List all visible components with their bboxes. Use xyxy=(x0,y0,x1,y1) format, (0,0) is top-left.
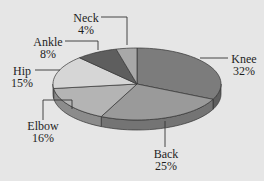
label-knee: Knee 32% xyxy=(229,53,259,77)
label-knee-pct: 32% xyxy=(229,65,259,77)
label-neck: Neck 4% xyxy=(72,12,100,36)
pie-chart: Neck 4% Ankle 8% Hip 15% Elbow 16% Back … xyxy=(0,0,264,181)
label-back: Back 25% xyxy=(151,148,181,172)
label-ankle-pct: 8% xyxy=(31,48,65,60)
label-elbow: Elbow 16% xyxy=(26,120,60,144)
label-elbow-pct: 16% xyxy=(26,132,60,144)
label-back-pct: 25% xyxy=(151,160,181,172)
label-hip-pct: 15% xyxy=(9,77,35,89)
leader-line-neck xyxy=(101,17,127,45)
label-ankle: Ankle 8% xyxy=(31,36,65,60)
leader-line-ankle xyxy=(65,41,98,50)
label-neck-pct: 4% xyxy=(72,24,100,36)
label-hip: Hip 15% xyxy=(9,65,35,89)
pie-graphic xyxy=(0,0,264,181)
pie-slices xyxy=(53,48,221,120)
